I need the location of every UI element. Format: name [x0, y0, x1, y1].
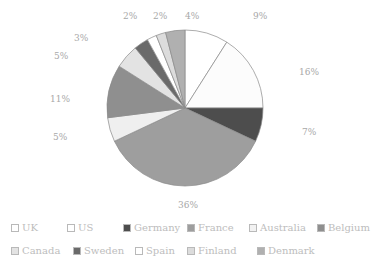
legend-item-spain[interactable]: Spain [135, 246, 175, 256]
pct-label-australia: 5% [53, 133, 67, 142]
pie-svg [0, 0, 375, 212]
pct-label-spain: 2% [123, 12, 137, 21]
legend-swatch-germany [123, 224, 131, 232]
legend-item-denmark[interactable]: Denmark [257, 246, 315, 256]
pct-label-uk: 9% [253, 12, 267, 21]
legend-item-australia[interactable]: Australia [249, 223, 306, 233]
legend-swatch-canada [11, 247, 19, 255]
legend-label-uk: UK [22, 223, 38, 233]
legend-item-finland[interactable]: Finland [187, 246, 237, 256]
pct-label-denmark: 4% [185, 12, 199, 21]
chart-legend: UKUSGermanyFranceAustraliaBelgium Canada… [0, 216, 375, 275]
legend-label-australia: Australia [260, 223, 306, 233]
legend-swatch-france [187, 224, 195, 232]
legend-label-finland: Finland [198, 246, 237, 256]
pct-label-us: 16% [299, 68, 319, 77]
pct-label-france: 36% [178, 201, 198, 210]
legend-label-us: US [78, 223, 93, 233]
legend-label-belgium: Belgium [328, 223, 370, 233]
legend-item-sweden[interactable]: Sweden [73, 246, 124, 256]
legend-label-germany: Germany [134, 223, 180, 233]
legend-swatch-sweden [73, 247, 81, 255]
legend-swatch-us [67, 224, 75, 232]
pie-slice-group [107, 30, 263, 186]
pie-plot-area: 9%16%7%36%5%11%5%3%2%2%4% [0, 0, 375, 212]
legend-swatch-uk [11, 224, 19, 232]
legend-swatch-finland [187, 247, 195, 255]
legend-item-us[interactable]: US [67, 223, 93, 233]
legend-label-france: France [198, 223, 234, 233]
legend-item-uk[interactable]: UK [11, 223, 38, 233]
pct-label-germany: 7% [302, 128, 316, 137]
legend-label-canada: Canada [22, 246, 60, 256]
legend-swatch-spain [135, 247, 143, 255]
legend-item-france[interactable]: France [187, 223, 234, 233]
pct-label-canada: 5% [54, 52, 68, 61]
pct-label-belgium: 11% [50, 95, 70, 104]
pct-label-finland: 2% [153, 12, 167, 21]
legend-swatch-belgium [317, 224, 325, 232]
legend-item-germany[interactable]: Germany [123, 223, 180, 233]
legend-label-sweden: Sweden [84, 246, 124, 256]
legend-swatch-australia [249, 224, 257, 232]
legend-label-spain: Spain [146, 246, 175, 256]
legend-item-canada[interactable]: Canada [11, 246, 60, 256]
legend-row-first: UKUSGermanyFranceAustraliaBelgium [11, 216, 375, 239]
legend-swatch-denmark [257, 247, 265, 255]
legend-row-second: CanadaSwedenSpainFinlandDenmark [11, 239, 375, 262]
legend-item-belgium[interactable]: Belgium [317, 223, 370, 233]
legend-label-denmark: Denmark [268, 246, 315, 256]
pie-chart-figure: 9%16%7%36%5%11%5%3%2%2%4% UKUSGermanyFra… [0, 0, 375, 275]
pct-label-sweden: 3% [74, 34, 88, 43]
